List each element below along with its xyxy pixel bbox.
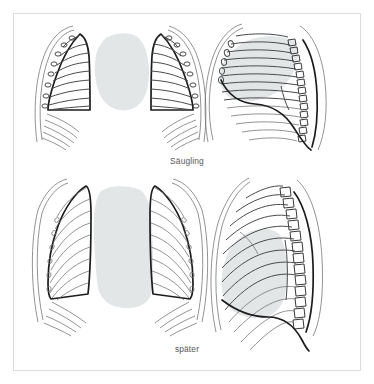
panel-adult-lateral: [211, 178, 323, 351]
infant-frontal-lower-ribs-right: [162, 114, 199, 150]
panel-adult-frontal: [32, 179, 207, 336]
adult-frontal-lung-left: [48, 186, 91, 299]
panel-infant-lateral: [205, 24, 326, 150]
infant-lateral-cardiac-border: [281, 86, 289, 110]
adult-lateral-cardiac-shadow: [222, 229, 288, 318]
infant-frontal-lower-ribs-left: [42, 114, 79, 150]
adult-frontal-mediastinal-shadow: [94, 186, 153, 308]
caption-saeugling: Säugling: [0, 156, 374, 166]
caption-spaeter: später: [0, 344, 374, 354]
panel-infant-frontal: [35, 26, 206, 150]
infant-lateral-vertebrae: [288, 39, 308, 142]
infant-frontal-mediastinal-shadow: [95, 33, 149, 110]
adult-frontal-ribs-left: [50, 188, 90, 300]
infant-lateral-posterior-wall: [300, 26, 326, 150]
figure-root: Säugling später: [0, 0, 374, 384]
adult-frontal-ribs-right: [151, 188, 191, 300]
adult-frontal-lung-right: [150, 186, 193, 299]
illustration-canvas: [0, 0, 374, 384]
